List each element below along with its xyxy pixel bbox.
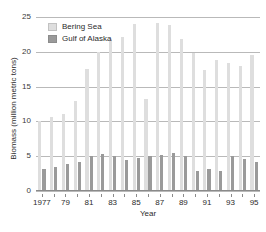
bar-gulf-of-alaska-1979 — [66, 164, 69, 191]
x-tick-mark — [207, 194, 208, 197]
chart-legend: Bering Sea Gulf of Alaska — [48, 21, 111, 45]
bar-bering-sea-1990 — [192, 53, 195, 191]
bar-gulf-of-alaska-1986 — [148, 156, 151, 191]
bar-bering-sea-1978 — [50, 117, 53, 191]
x-tick-mark — [183, 194, 184, 197]
x-tick-mark — [65, 194, 66, 197]
x-axis-title: Year — [36, 209, 260, 218]
bar-bering-sea-1987 — [156, 23, 159, 191]
x-tick-mark — [124, 194, 125, 197]
x-tick-label: 91 — [202, 199, 211, 207]
x-tick-mark — [113, 194, 114, 197]
y-tick-label: 0 — [27, 187, 31, 195]
bar-bering-sea-1983 — [109, 39, 112, 191]
x-tick-label: 85 — [132, 199, 141, 207]
x-tick-mark — [101, 194, 102, 197]
x-tick-label: 83 — [108, 199, 117, 207]
bar-gulf-of-alaska-1985 — [137, 158, 140, 191]
bar-bering-sea-1989 — [180, 39, 183, 191]
bar-gulf-of-alaska-1980 — [78, 162, 81, 191]
x-tick-mark — [148, 194, 149, 197]
legend-label: Bering Sea — [62, 23, 102, 31]
x-tick-mark — [54, 194, 55, 197]
bar-gulf-of-alaska-1983 — [113, 156, 116, 191]
x-tick-mark — [89, 194, 90, 197]
bar-gulf-of-alaska-1981 — [90, 156, 93, 191]
x-tick-mark — [160, 194, 161, 197]
bar-bering-sea-1988 — [168, 25, 171, 191]
y-tick-label: 20 — [22, 48, 31, 56]
bar-bering-sea-1980 — [74, 101, 77, 191]
x-tick-mark — [219, 194, 220, 197]
legend-label: Gulf of Alaska — [62, 35, 111, 43]
dark-gray-swatch-icon — [48, 35, 57, 43]
bar-gulf-of-alaska-1987 — [160, 155, 163, 191]
x-tick-mark — [195, 194, 196, 197]
bar-gulf-of-alaska-1995 — [255, 162, 258, 191]
x-tick-mark — [254, 194, 255, 197]
bar-gulf-of-alaska-1992 — [219, 171, 222, 191]
bar-gulf-of-alaska-1978 — [54, 167, 57, 191]
bar-bering-sea-1982 — [97, 52, 100, 191]
bar-gulf-of-alaska-1984 — [125, 160, 128, 191]
y-tick-label: 10 — [22, 117, 31, 125]
x-tick-mark — [231, 194, 232, 197]
x-axis-baseline — [36, 190, 260, 191]
y-tick-label: 15 — [22, 83, 31, 91]
x-tick-label: 95 — [250, 199, 259, 207]
y-tick-label: 25 — [22, 13, 31, 21]
x-tick-mark — [136, 194, 137, 197]
bar-gulf-of-alaska-1988 — [172, 153, 175, 191]
gridline — [36, 191, 260, 192]
legend-item-gulf-of-alaska: Gulf of Alaska — [48, 33, 111, 44]
bar-bering-sea-1991 — [203, 70, 206, 191]
bar-bering-sea-1977 — [38, 121, 41, 191]
x-tick-mark — [77, 194, 78, 197]
bar-gulf-of-alaska-1993 — [231, 156, 234, 191]
x-axis-tick-labels: 1977798183858789919395 — [36, 194, 260, 208]
light-gray-swatch-icon — [48, 23, 57, 31]
x-tick-label: 1977 — [33, 199, 51, 207]
bar-gulf-of-alaska-1994 — [243, 159, 246, 191]
bar-bering-sea-1992 — [215, 60, 218, 191]
bar-bering-sea-1995 — [250, 55, 253, 191]
bar-bering-sea-1993 — [227, 63, 230, 191]
bar-gulf-of-alaska-1990 — [196, 171, 199, 191]
bar-bering-sea-1994 — [239, 66, 242, 191]
x-tick-label: 93 — [226, 199, 235, 207]
gridline — [36, 17, 260, 18]
bar-gulf-of-alaska-1989 — [184, 156, 187, 191]
x-tick-mark — [172, 194, 173, 197]
bar-gulf-of-alaska-1977 — [42, 169, 45, 191]
y-tick-label: 5 — [27, 152, 31, 160]
bar-bering-sea-1985 — [133, 24, 136, 191]
bar-gulf-of-alaska-1991 — [207, 169, 210, 191]
y-axis-tick-labels: 0510152025 — [0, 0, 36, 232]
bar-bering-sea-1986 — [144, 99, 147, 191]
x-tick-label: 89 — [179, 199, 188, 207]
x-tick-label: 81 — [85, 199, 94, 207]
x-tick-mark — [242, 194, 243, 197]
x-tick-mark — [42, 194, 43, 197]
bar-bering-sea-1979 — [62, 114, 65, 191]
x-tick-label: 87 — [155, 199, 164, 207]
bar-bering-sea-1981 — [85, 69, 88, 191]
legend-item-bering-sea: Bering Sea — [48, 21, 111, 32]
biomass-bar-chart: Biomass (million metric tons) 0510152025… — [0, 0, 266, 232]
bar-bering-sea-1984 — [121, 37, 124, 191]
x-tick-label: 79 — [61, 199, 70, 207]
bar-gulf-of-alaska-1982 — [101, 154, 104, 191]
gridline — [36, 52, 260, 53]
